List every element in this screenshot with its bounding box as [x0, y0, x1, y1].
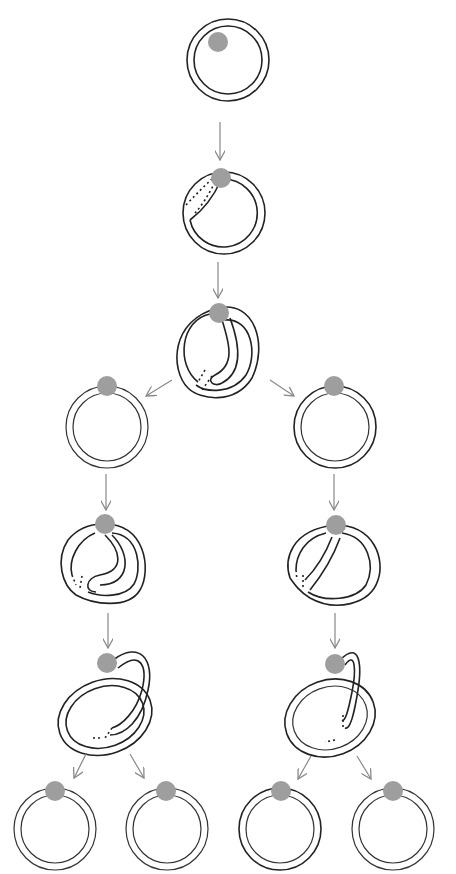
node-ring-fold	[288, 515, 380, 605]
bead-icon	[97, 653, 117, 673]
node-plain-ring-leaf-3	[239, 781, 321, 870]
bead-icon	[383, 781, 403, 801]
bead-icon	[209, 303, 229, 323]
arrow-down-right	[130, 754, 144, 778]
bead-icon	[156, 781, 176, 801]
bead-icon	[211, 168, 231, 188]
node-plain-ring-right	[294, 376, 376, 468]
node-twisted-loop-left	[47, 652, 163, 768]
node-plain-ring-leaf-1	[14, 781, 96, 870]
bead-icon	[326, 515, 346, 535]
bead-icon	[324, 376, 344, 396]
node-twisted-loop-right	[274, 653, 386, 770]
node-plain-ring-1	[187, 19, 269, 101]
arrow-down-right	[357, 756, 371, 779]
arrow-down-left	[146, 380, 172, 396]
bead-icon	[45, 781, 65, 801]
arrow-down-right	[270, 380, 294, 396]
bead-icon	[208, 32, 228, 52]
node-ring-deep-fold	[177, 303, 259, 398]
arrow-down-left	[298, 756, 311, 779]
bead-icon	[97, 376, 117, 396]
node-ring-s-fold	[61, 514, 145, 603]
node-plain-ring-left	[66, 376, 148, 468]
ring-tree-diagram	[0, 0, 456, 874]
bead-icon	[95, 514, 115, 534]
bead-icon	[271, 781, 291, 801]
bead-icon	[325, 654, 345, 674]
node-ring-small-fold	[183, 168, 265, 254]
node-plain-ring-leaf-4	[352, 781, 434, 870]
node-plain-ring-leaf-2	[126, 781, 208, 870]
arrow-down-left	[74, 754, 86, 778]
